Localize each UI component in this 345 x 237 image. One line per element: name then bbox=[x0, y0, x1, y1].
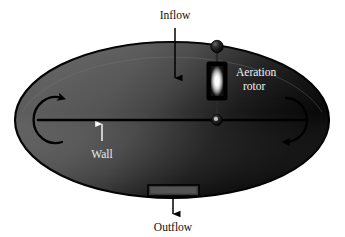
inflow-label: Inflow bbox=[160, 9, 191, 21]
wall-label: Wall bbox=[91, 148, 112, 160]
outflow-weir bbox=[148, 185, 199, 196]
outflow-label: Outflow bbox=[154, 221, 193, 233]
aeration-rotor-label-line1: Aeration bbox=[236, 66, 276, 78]
rotor-knob-top bbox=[211, 40, 223, 52]
oxidation-ditch-figure: Inflow Wall Outflow bbox=[0, 0, 345, 237]
aeration-rotor-label-line2: rotor bbox=[243, 80, 266, 92]
rotor-glow bbox=[211, 66, 224, 96]
outflow-weir-inner bbox=[151, 187, 197, 194]
diagram-canvas: Inflow Wall Outflow bbox=[0, 0, 345, 237]
rotor-knob-bottom-highlight bbox=[214, 117, 218, 121]
